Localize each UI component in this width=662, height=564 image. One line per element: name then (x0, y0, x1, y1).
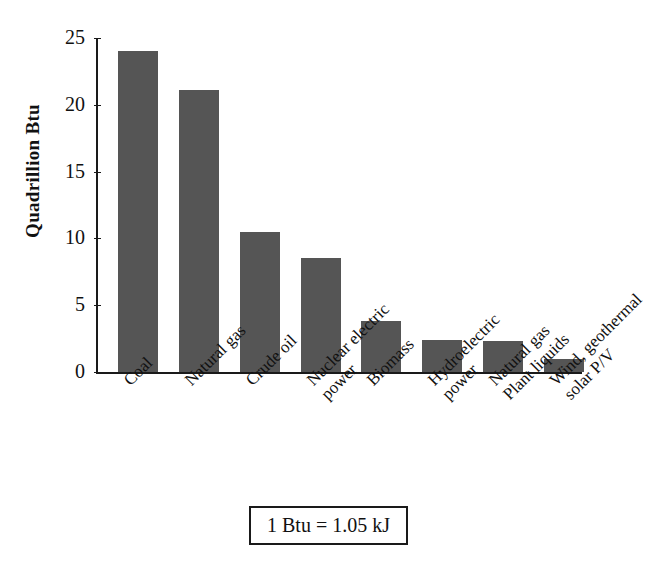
unit-conversion-note: 1 Btu = 1.05 kJ (249, 506, 408, 545)
plot-area: 0510152025 (96, 38, 582, 372)
y-tick-label: 15 (65, 160, 85, 182)
bar (118, 51, 158, 372)
y-tick-label: 20 (65, 93, 85, 115)
y-tick-label: 0 (75, 360, 85, 382)
x-axis-category-labels: CoalNatural gasCrude oilNuclear electric… (96, 376, 582, 506)
y-tick: 0 (94, 372, 101, 373)
y-axis-title: Quadrillion Btu (22, 91, 44, 251)
bar (179, 90, 219, 372)
bar-series (96, 38, 582, 372)
y-tick-label: 10 (65, 226, 85, 248)
bar-chart-figure: Quadrillion Btu 0510152025 CoalNatural g… (0, 0, 662, 564)
y-tick-label: 25 (65, 26, 85, 48)
y-tick-label: 5 (75, 293, 85, 315)
